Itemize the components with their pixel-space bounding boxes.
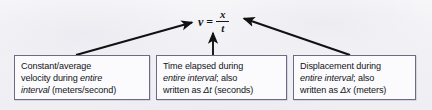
arrow-to-v-icon (76, 23, 192, 56)
callout-text-line: velocity during entire (21, 72, 144, 84)
arrow-to-x-icon (244, 19, 350, 56)
callout-text-line: interval (meters/second) (21, 84, 144, 96)
callout-text: written as (300, 85, 340, 95)
callout-emphasis: entire (80, 73, 102, 83)
callout-text: (meters) (351, 85, 386, 95)
equation-variable-v: v (198, 16, 203, 28)
equation-numerator-x: x (218, 9, 228, 21)
equation-callout-figure: v = x t Constant/averagevelocity during … (0, 0, 432, 110)
equation-denominator-t: t (219, 22, 226, 34)
callout-emphasis: Δx (340, 85, 350, 95)
callout-text-line: Time elapsed during (163, 60, 281, 72)
callout-text: Time elapsed during (163, 61, 243, 71)
callout-text-line: written as Δx (meters) (300, 84, 410, 96)
callout-box-velocity: Constant/averagevelocity during entirein… (14, 55, 150, 100)
callout-text: ; also (353, 73, 374, 83)
equation-equals-sign: = (206, 16, 213, 28)
equation-fraction: x t (216, 9, 229, 34)
callout-emphasis: entire interval (300, 73, 353, 83)
equation-v-equals-x-over-t: v = x t (198, 9, 229, 34)
callout-emphasis: interval (21, 85, 50, 95)
callout-text-line: entire interval; also (300, 72, 410, 84)
callout-text: Displacement during (300, 61, 381, 71)
callout-text: Constant/average (21, 61, 91, 71)
callout-box-displacement: Displacement duringentire interval; also… (293, 55, 416, 100)
callout-text: (meters/second) (50, 85, 117, 95)
callout-text-line: Constant/average (21, 60, 144, 72)
callout-emphasis: Δt (203, 85, 211, 95)
callout-text-line: written as Δt (seconds) (163, 84, 281, 96)
callout-emphasis: entire interval (163, 73, 216, 83)
callout-text-line: Displacement during (300, 60, 410, 72)
callout-text: ; also (216, 73, 237, 83)
callout-box-time: Time elapsed duringentire interval; also… (156, 55, 287, 100)
callout-text: (seconds) (212, 85, 253, 95)
callout-text: written as (163, 85, 203, 95)
callout-text-line: entire interval; also (163, 72, 281, 84)
callout-text: velocity during (21, 73, 80, 83)
